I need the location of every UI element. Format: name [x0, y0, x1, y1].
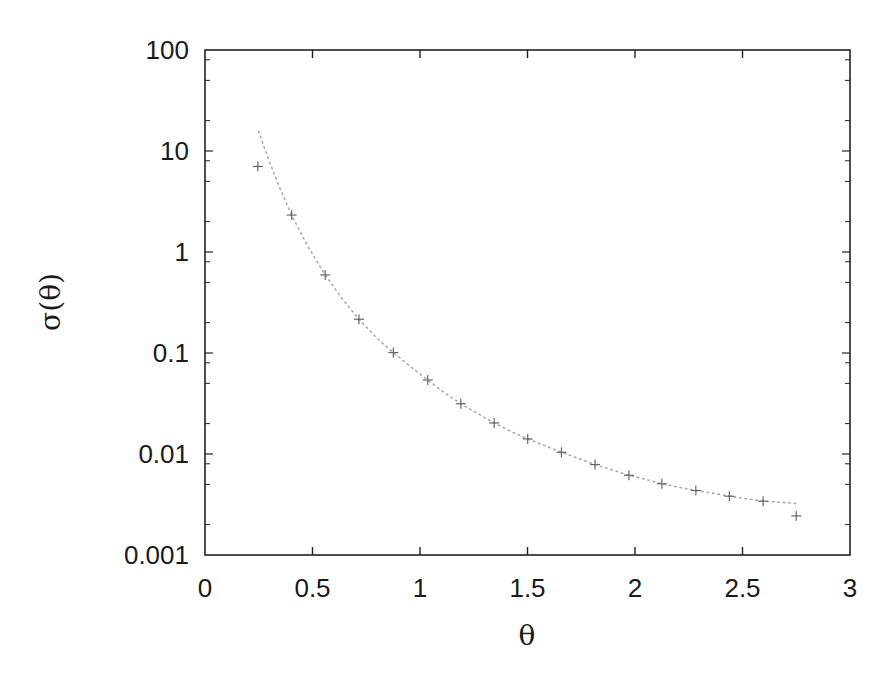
- data-point: [489, 418, 499, 428]
- y-tick-label: 0.01: [138, 439, 189, 469]
- data-point: [624, 470, 634, 480]
- data-point: [456, 399, 466, 409]
- data-point: [657, 479, 667, 489]
- y-tick-label: 1: [175, 237, 189, 267]
- fit-curve: [259, 131, 797, 503]
- data-point: [388, 348, 398, 358]
- data-point: [691, 486, 701, 496]
- data-point: [724, 491, 734, 501]
- x-tick-label: 0.5: [294, 573, 330, 603]
- x-tick-label: 3: [843, 573, 857, 603]
- x-tick-label: 1.5: [509, 573, 545, 603]
- data-points: [253, 161, 801, 520]
- x-tick-label: 2.5: [724, 573, 760, 603]
- data-point: [791, 511, 801, 521]
- x-tick-label: 1: [413, 573, 427, 603]
- data-point: [523, 434, 533, 444]
- plot-frame: [205, 50, 850, 555]
- curve-line: [259, 131, 797, 503]
- chart: 00.511.522.53 1001010.10.010.001 θ σ(θ): [0, 0, 896, 676]
- data-point: [287, 210, 297, 220]
- y-tick-label: 100: [146, 35, 189, 65]
- plot-border: [205, 50, 850, 555]
- data-point: [320, 270, 330, 280]
- data-point: [253, 161, 263, 171]
- y-tick-label: 0.1: [153, 338, 189, 368]
- axis-ticks: [205, 50, 850, 555]
- data-point: [758, 496, 768, 506]
- data-point: [590, 460, 600, 470]
- x-tick-label: 0: [198, 573, 212, 603]
- y-axis-label: σ(θ): [34, 273, 67, 331]
- x-axis-label: θ: [519, 619, 536, 652]
- y-tick-label: 10: [160, 136, 189, 166]
- x-tick-label: 2: [628, 573, 642, 603]
- data-point: [423, 375, 433, 385]
- y-tick-label: 0.001: [124, 540, 189, 570]
- x-tick-labels: 00.511.522.53: [198, 573, 857, 603]
- data-point: [556, 447, 566, 457]
- y-tick-labels: 1001010.10.010.001: [124, 35, 189, 570]
